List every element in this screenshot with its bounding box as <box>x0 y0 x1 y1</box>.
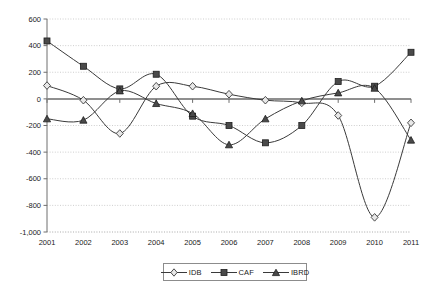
x-axis-tick-label: 2002 <box>75 238 92 247</box>
y-axis-tick-label: 400 <box>28 41 41 50</box>
data-point-caf <box>408 49 414 55</box>
x-axis-tick-label: 2006 <box>221 238 238 247</box>
data-point-ibrd <box>262 115 269 122</box>
line-chart: 6004002000-200-400-600-800-1,00020012002… <box>0 0 425 288</box>
data-point-caf <box>80 63 86 69</box>
legend-label-idb: IDB <box>189 268 202 277</box>
chart-legend: IDB CAF IBRD <box>163 263 307 281</box>
legend-marker-square-icon <box>211 267 237 278</box>
x-axis-tick-label: 2001 <box>39 238 56 247</box>
data-point-caf <box>226 123 232 129</box>
data-point-caf <box>44 38 50 44</box>
y-axis-tick-label: -400 <box>26 148 41 157</box>
legend-label-ibrd: IBRD <box>291 268 309 277</box>
y-axis-tick-label: 0 <box>37 95 41 104</box>
data-point-ibrd <box>80 117 87 124</box>
data-point-caf <box>153 71 159 77</box>
y-axis-tick-label: -600 <box>26 174 41 183</box>
chart-canvas: 6004002000-200-400-600-800-1,00020012002… <box>0 0 425 288</box>
data-point-idb <box>80 96 87 104</box>
data-point-idb <box>371 214 378 222</box>
x-axis-tick-label: 2004 <box>148 238 165 247</box>
y-axis-tick-label: 600 <box>28 15 41 24</box>
data-point-idb <box>189 82 196 90</box>
legend-label-caf: CAF <box>239 268 254 277</box>
x-axis-tick-label: 2010 <box>366 238 383 247</box>
data-point-caf <box>299 123 305 129</box>
data-point-idb <box>44 82 51 90</box>
y-axis-tick-label: -1,000 <box>20 228 41 237</box>
legend-item-caf: CAF <box>211 267 254 278</box>
x-axis-tick-label: 2007 <box>257 238 274 247</box>
legend-item-ibrd: IBRD <box>263 267 309 278</box>
data-point-idb <box>226 90 233 98</box>
legend-marker-triangle-icon <box>263 267 289 278</box>
data-point-ibrd <box>153 100 160 107</box>
data-point-idb <box>116 130 123 138</box>
x-axis-tick-label: 2008 <box>293 238 310 247</box>
x-axis-tick-label: 2005 <box>184 238 201 247</box>
x-axis-tick-label: 2003 <box>111 238 128 247</box>
x-axis-tick-label: 2011 <box>403 238 419 247</box>
data-point-ibrd <box>43 115 50 122</box>
data-point-ibrd <box>407 137 414 144</box>
y-axis-tick-label: -200 <box>26 121 41 130</box>
x-axis-tick-label: 2009 <box>330 238 347 247</box>
y-axis-tick-label: -800 <box>26 201 41 210</box>
legend-item-idb: IDB <box>161 267 202 278</box>
data-point-caf <box>335 79 341 85</box>
legend-marker-diamond-icon <box>161 267 187 278</box>
data-point-caf <box>262 140 268 146</box>
data-point-idb <box>262 96 269 104</box>
y-axis-tick-label: 200 <box>28 68 41 77</box>
